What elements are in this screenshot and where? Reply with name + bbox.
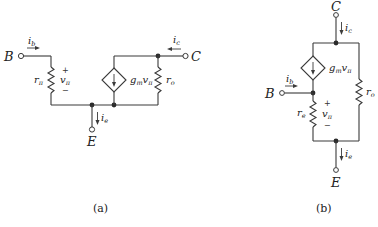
dependent-current-source-icon-b <box>301 56 325 80</box>
base-terminal-label-b: B <box>264 86 275 101</box>
circuit-b: C ic gmvπ B ib re <box>264 0 375 215</box>
gm-v-pi-label-b: gmvπ <box>329 62 352 75</box>
r-pi-label: rπ <box>34 74 44 87</box>
base-current-label: ib <box>28 35 35 48</box>
r-e-resistor-icon <box>310 101 316 127</box>
collector-current-label-b: ic <box>345 22 352 35</box>
collector-current-arrow <box>167 47 181 51</box>
bjt-small-signal-models: B ib rπ + vπ − E ie <box>0 0 378 227</box>
collector-terminal-node-b <box>334 13 339 18</box>
r-o-label: ro <box>166 74 175 87</box>
base-terminal-node <box>18 53 23 58</box>
collector-terminal-label: C <box>191 49 201 64</box>
emitter-terminal-node-b <box>334 168 339 173</box>
r-o-resistor-icon <box>155 67 161 93</box>
r-o-label-b: ro <box>366 86 375 99</box>
r-o-resistor-icon-b <box>356 79 362 105</box>
collector-terminal-node <box>183 53 188 58</box>
emitter-current-arrow-b <box>340 148 344 161</box>
caption-a: (a) <box>93 202 108 215</box>
v-pi-label-b: vπ <box>322 108 333 121</box>
emitter-current-label: ie <box>101 112 108 125</box>
emitter-terminal-node <box>89 127 94 132</box>
emitter-current-label-b: ie <box>345 148 352 161</box>
caption-b: (b) <box>316 202 332 215</box>
r-e-label: re <box>297 107 306 120</box>
base-current-label-b: ib <box>286 73 293 86</box>
emitter-terminal-label: E <box>86 134 97 149</box>
gm-v-pi-label: gmvπ <box>130 74 153 87</box>
dependent-current-source-icon <box>102 68 126 92</box>
v-pi-minus-sign: − <box>62 86 69 95</box>
circuit-a: B ib rπ + vπ − E ie <box>3 34 201 215</box>
v-pi-minus-sign-b: − <box>324 121 331 130</box>
collector-current-label: ic <box>173 34 180 47</box>
base-terminal-label: B <box>3 49 14 64</box>
r-pi-resistor-icon <box>48 67 54 93</box>
emitter-current-arrow <box>96 112 100 125</box>
collector-current-arrow-b <box>340 22 344 35</box>
collector-terminal-label-b: C <box>331 0 341 14</box>
emitter-terminal-label-b: E <box>330 175 341 190</box>
v-pi-plus-sign-b: + <box>324 99 331 108</box>
base-terminal-node-b <box>280 91 285 96</box>
collector-junction-dot-b <box>334 41 339 46</box>
